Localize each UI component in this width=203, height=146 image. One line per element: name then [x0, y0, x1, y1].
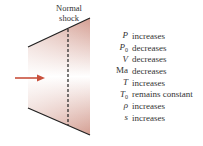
property-symbol: s	[112, 112, 132, 123]
property-row-entropy: s increases	[112, 112, 193, 124]
property-row-stagnation-pressure: P0 decreases	[112, 42, 193, 54]
property-change: increases	[132, 113, 165, 123]
property-changes-list: P increases P0 decreases V decreases Ma …	[112, 30, 193, 124]
property-row-density: ρ increases	[112, 100, 193, 112]
property-change: remains constant	[132, 89, 193, 99]
property-symbol: V	[112, 54, 132, 65]
property-change: increases	[132, 78, 165, 88]
property-row-temperature: T increases	[112, 77, 193, 89]
property-change: decreases	[132, 54, 166, 64]
property-change: increases	[132, 101, 165, 111]
property-symbol: P0	[112, 42, 132, 53]
property-change: increases	[132, 31, 165, 41]
property-row-mach: Ma decreases	[112, 65, 193, 77]
normal-shock-label: Normal shock	[46, 3, 92, 23]
property-row-pressure: P increases	[112, 30, 193, 42]
shock-label-line2: shock	[46, 13, 92, 23]
property-symbol: T	[112, 77, 132, 88]
property-change: decreases	[132, 43, 166, 53]
property-symbol: ρ	[112, 100, 132, 111]
property-change: decreases	[132, 66, 166, 76]
property-symbol: P	[112, 30, 132, 41]
property-row-stagnation-temperature: T0 remains constant	[112, 88, 193, 100]
property-symbol: T0	[112, 89, 132, 100]
property-symbol: Ma	[112, 65, 132, 76]
nozzle-diagram: Normal shock	[0, 0, 100, 146]
shock-label-line1: Normal	[46, 3, 92, 13]
property-row-velocity: V decreases	[112, 53, 193, 65]
